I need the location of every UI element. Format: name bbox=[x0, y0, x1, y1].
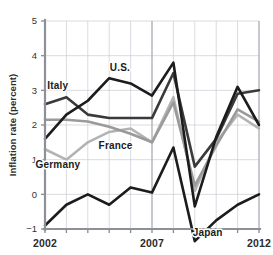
y-tick-label: 5 bbox=[32, 15, 37, 26]
series-label-japan: Japan bbox=[193, 227, 223, 238]
y-tick-label: −1 bbox=[26, 223, 37, 234]
y-tick-label: 4 bbox=[32, 50, 37, 61]
inflation-rate-line-chart: 543210−1200220072012Inflation rate (perc… bbox=[0, 0, 273, 255]
series-label-us: U.S. bbox=[110, 62, 130, 73]
y-axis-title: Inflation rate (percent) bbox=[7, 74, 18, 177]
series-label-germany: Germany bbox=[35, 159, 80, 170]
x-tick-label: 2002 bbox=[33, 237, 57, 249]
series-label-italy: Italy bbox=[47, 80, 68, 91]
series-label-france: France bbox=[99, 140, 133, 151]
x-axis-tick-labels: 200220072012 bbox=[33, 237, 271, 249]
y-tick-label: 2 bbox=[32, 119, 37, 130]
y-tick-label: 0 bbox=[32, 189, 37, 200]
x-tick-label: 2012 bbox=[247, 237, 271, 249]
chart-canvas: 543210−1200220072012Inflation rate (perc… bbox=[0, 0, 273, 255]
y-tick-label: 3 bbox=[32, 85, 37, 96]
y-axis-tick-labels: 543210−1 bbox=[26, 15, 37, 234]
x-tick-label: 2007 bbox=[140, 237, 164, 249]
